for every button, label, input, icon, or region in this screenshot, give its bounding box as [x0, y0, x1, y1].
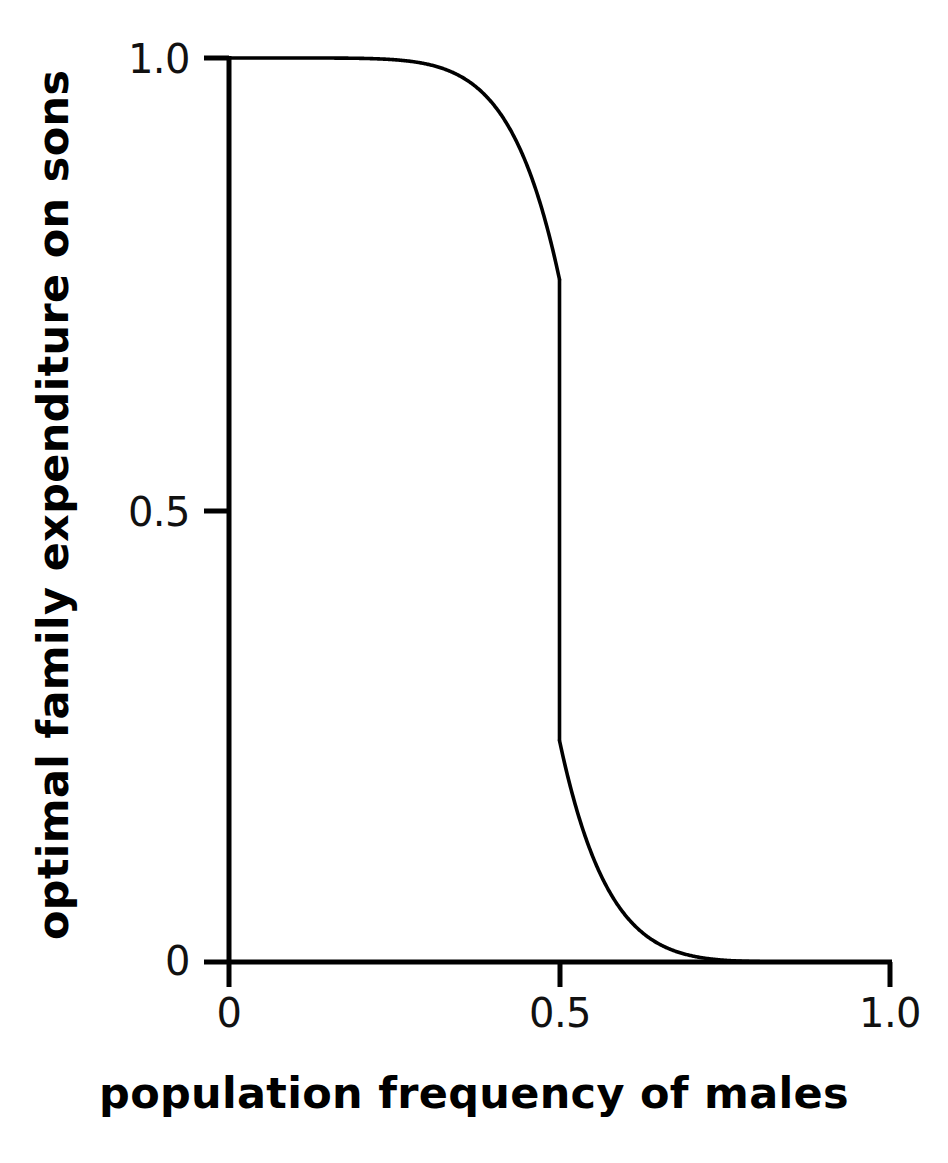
data-curve-upper-branch: [229, 58, 560, 279]
data-curve-lower-branch: [560, 741, 891, 962]
x-axis-title: population frequency of males: [0, 1068, 948, 1118]
y-axis-title: optimal family expenditure on sons: [28, 70, 78, 940]
x-tick-label-0: 0: [179, 990, 279, 1036]
x-tick-label-1-0: 1.0: [840, 990, 940, 1036]
y-tick-label-0: 0: [40, 938, 190, 984]
x-tick-label-0-5: 0.5: [510, 990, 610, 1036]
plot-canvas: [0, 0, 948, 1163]
chart-figure: 1.0 0.5 0 0 0.5 1.0 population frequency…: [0, 0, 948, 1163]
